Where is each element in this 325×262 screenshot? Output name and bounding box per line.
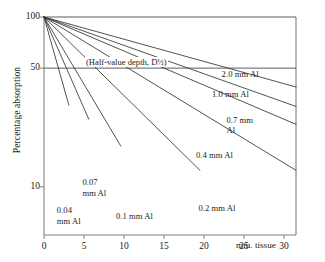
curve-label-0-07-mm-al: 0.07 mm Al [82, 177, 106, 198]
x-tick-label: 15 [149, 241, 179, 251]
half-value-depth-annotation: (Half-value depth, D½) [85, 57, 168, 67]
curve-label-2-0-mm-al: 2.0 mm Al [222, 69, 259, 80]
x-tick-label: 0 [29, 241, 59, 251]
x-tick-label: 20 [189, 241, 219, 251]
x-tick-label: 5 [69, 241, 99, 251]
absorption-curves [44, 17, 296, 170]
y-axis-title: Percentage absorption [12, 35, 22, 185]
curve-label-0-04-mm-al: 0.04 mm Al [57, 205, 81, 226]
curve-label-1-0-mm-al: 1.0 mm Al [212, 89, 249, 100]
x-tick-label: 10 [109, 241, 139, 251]
curve-label-0-4-mm-al: 0.4 mm Al [196, 150, 233, 161]
y-tick-label: 100 [10, 11, 40, 21]
curve-label-0-7-mm-al: 0.7 mm Al [226, 115, 253, 136]
curve-label-0-2-mm-al: 0.2 mm Al [198, 203, 235, 214]
curve-label-0-1-mm-al: 0.1 mm Al [116, 211, 153, 222]
reference-lines [44, 17, 296, 68]
x-axis-title: mm. tissue [236, 240, 276, 250]
plot-frame [44, 17, 296, 235]
y-tick-label: 50 [10, 62, 40, 72]
absorption-line-chart [0, 0, 325, 262]
y-tick-label: 10 [10, 181, 40, 191]
chart-figure: Percentage absorption 1005010 0510152025… [0, 0, 325, 262]
